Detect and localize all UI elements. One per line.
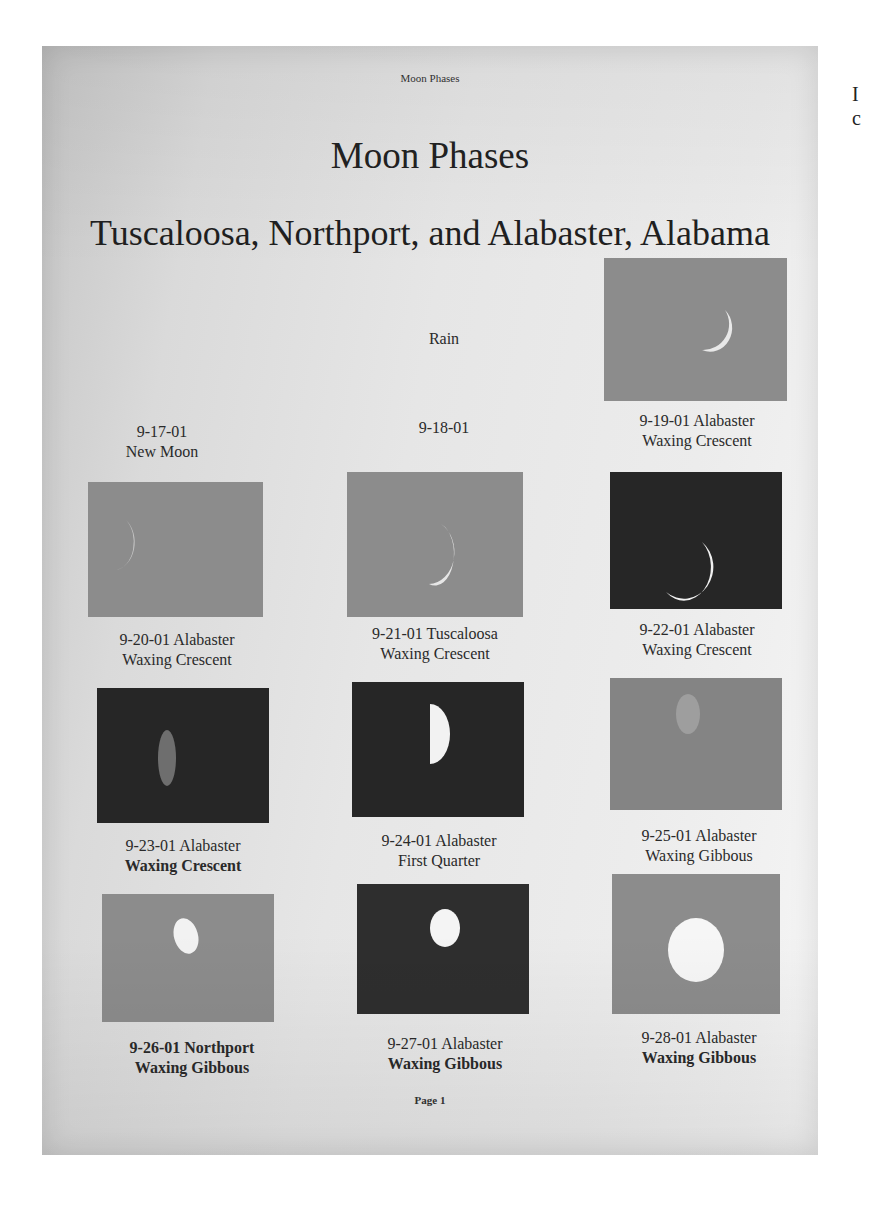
caption-date-location: 9-23-01 Alabaster: [88, 836, 278, 856]
caption-9-22: 9-22-01 Alabaster Waxing Crescent: [602, 620, 792, 660]
moon-photo-9-25: [610, 678, 782, 810]
caption-phase: Waxing Gibbous: [350, 1054, 540, 1074]
caption-9-17: 9-17-01 New Moon: [82, 422, 242, 462]
dim-crescent-moon-icon: [97, 688, 269, 823]
page-subtitle: Tuscaloosa, Northport, and Alabaster, Al…: [42, 212, 818, 254]
moon-photo-9-24: [352, 682, 524, 817]
caption-date-location: 9-26-01 Northport: [97, 1038, 287, 1058]
crescent-moon-icon: [610, 472, 782, 609]
caption-phase: Waxing Gibbous: [604, 1048, 794, 1068]
caption-date-location: 9-28-01 Alabaster: [604, 1028, 794, 1048]
moon-photo-9-20: [88, 482, 263, 617]
caption-9-21: 9-21-01 Tuscaloosa Waxing Crescent: [340, 624, 530, 664]
crescent-moon-icon: [347, 472, 523, 617]
running-header: Moon Phases: [42, 72, 818, 84]
caption-phase: First Quarter: [344, 851, 534, 871]
faint-crescent-moon-icon: [88, 482, 263, 617]
caption-date-location: 9-20-01 Alabaster: [82, 630, 272, 650]
moon-photo-9-23: [97, 688, 269, 823]
caption-9-24: 9-24-01 Alabaster First Quarter: [344, 831, 534, 871]
caption-date: 9-18-01: [354, 418, 534, 438]
half-moon-icon: [352, 682, 524, 817]
caption-date: 9-17-01: [82, 422, 242, 442]
caption-phase: Waxing Crescent: [340, 644, 530, 664]
caption-date-location: 9-21-01 Tuscaloosa: [340, 624, 530, 644]
caption-phase: Waxing Crescent: [82, 650, 272, 670]
caption-date-location: 9-19-01 Alabaster: [602, 411, 792, 431]
moon-photo-9-28: [612, 874, 780, 1014]
caption-9-26: 9-26-01 Northport Waxing Gibbous: [97, 1038, 287, 1078]
moon-photo-9-27: [357, 884, 529, 1014]
caption-phase: Waxing Crescent: [88, 856, 278, 876]
caption-date-location: 9-27-01 Alabaster: [350, 1034, 540, 1054]
page-title: Moon Phases: [42, 134, 818, 177]
caption-9-19: 9-19-01 Alabaster Waxing Crescent: [602, 411, 792, 451]
caption-date-location: 9-25-01 Alabaster: [604, 826, 794, 846]
caption-phase: Waxing Gibbous: [97, 1058, 287, 1078]
caption-date-location: 9-24-01 Alabaster: [344, 831, 534, 851]
large-gibbous-moon-icon: [612, 874, 780, 1014]
edge-text-fragment: c: [852, 108, 861, 128]
caption-phase: Waxing Crescent: [602, 640, 792, 660]
caption-9-20: 9-20-01 Alabaster Waxing Crescent: [82, 630, 272, 670]
gibbous-moon-icon: [102, 894, 274, 1022]
document-page: Moon Phases Moon Phases Tuscaloosa, Nort…: [42, 46, 818, 1155]
caption-9-27: 9-27-01 Alabaster Waxing Gibbous: [350, 1034, 540, 1074]
moon-photo-9-22: [610, 472, 782, 609]
caption-9-28: 9-28-01 Alabaster Waxing Gibbous: [604, 1028, 794, 1068]
gibbous-moon-icon: [357, 884, 529, 1014]
edge-text-fragment: I: [852, 84, 859, 104]
thin-crescent-moon-icon: [604, 258, 787, 401]
caption-9-25: 9-25-01 Alabaster Waxing Gibbous: [604, 826, 794, 866]
caption-9-23: 9-23-01 Alabaster Waxing Crescent: [88, 836, 278, 876]
faint-gibbous-moon-icon: [610, 678, 782, 810]
caption-date-location: 9-22-01 Alabaster: [602, 620, 792, 640]
caption-phase: New Moon: [82, 442, 242, 462]
caption-phase: Waxing Crescent: [602, 431, 792, 451]
caption-9-18: 9-18-01: [354, 418, 534, 438]
page-number: Page 1: [42, 1094, 818, 1106]
caption-phase: Waxing Gibbous: [604, 846, 794, 866]
moon-photo-9-21: [347, 472, 523, 617]
moon-photo-9-19: [604, 258, 787, 401]
moon-photo-9-26: [102, 894, 274, 1022]
weather-note: Rain: [354, 329, 534, 349]
